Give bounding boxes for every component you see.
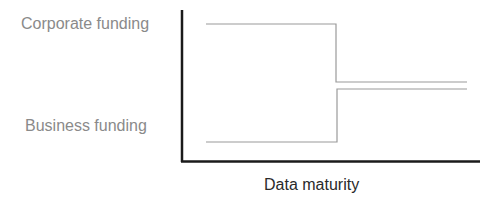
chart-canvas <box>0 0 501 210</box>
x-axis-label: Data maturity <box>264 176 359 194</box>
corporate-funding-line <box>206 24 467 82</box>
business-funding-line <box>206 89 467 142</box>
